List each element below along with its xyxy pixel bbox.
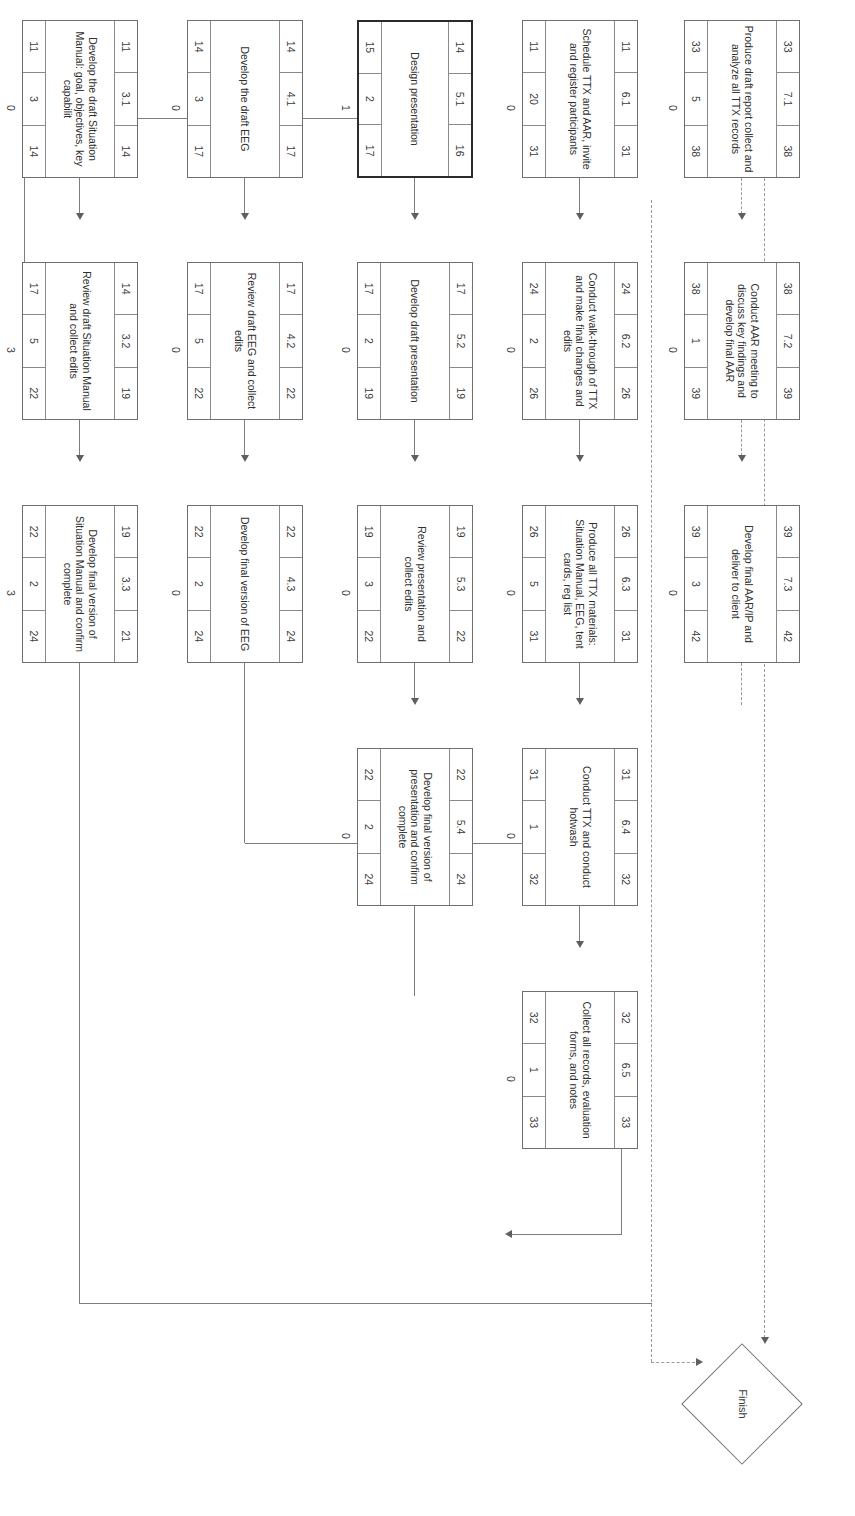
activity-description: Develop the draft Situation Manual: goal…	[46, 21, 114, 177]
activity-node[interactable]: 26 6.3 31 Produce all TTX materials: Sit…	[522, 505, 638, 663]
duration: 1	[523, 801, 545, 853]
late-finish: 38	[685, 126, 707, 177]
late-finish: 17	[359, 125, 381, 176]
activity-node[interactable]: 19 5.3 22 Review presentation and collec…	[357, 505, 473, 663]
float-value: 0	[667, 341, 679, 359]
connector-arrow-6p1-6p2	[576, 213, 584, 220]
activity-description: Review presentation and collect edits	[381, 506, 449, 662]
connector-arrow-6p2-6p3	[576, 455, 584, 462]
activity-description: Develop final AAR/IP and deliver to clie…	[708, 506, 776, 662]
early-start: 14	[115, 263, 137, 315]
activity-node[interactable]: 17 5.2 19 Develop draft presentation 17 …	[357, 262, 473, 420]
activity-description: Develop final version of presentation an…	[381, 749, 449, 905]
activity-node[interactable]: 14 5.1 16 Design presentation 15 2 17	[357, 20, 473, 178]
late-start: 38	[685, 263, 707, 315]
activity-id: 5.4	[450, 801, 472, 853]
connector-arrow-7p1-7p2	[738, 213, 746, 220]
connector-3p2-to-3p3	[79, 420, 80, 456]
activity-node[interactable]: 24 6.2 26 Conduct walk-through of TTX an…	[522, 262, 638, 420]
node-top-row: 33 7.1 38	[776, 21, 799, 177]
float-value: 0	[505, 341, 517, 359]
node-bottom-row: 11 3 14	[23, 21, 46, 177]
activity-node[interactable]: 11 6.1 31 Schedule TTX and AAR, invite a…	[522, 20, 638, 178]
float-value: 0	[340, 341, 352, 359]
early-finish: 33	[615, 1097, 637, 1148]
node-top-row: 32 6.5 33	[614, 992, 637, 1148]
activity-description: Produce draft report collect and analyze…	[708, 21, 776, 177]
connector-3p1-to-3p2	[79, 178, 80, 214]
early-finish: 39	[777, 368, 799, 419]
node-bottom-row: 11 20 31	[523, 21, 546, 177]
node-top-row: 22 5.4 24	[449, 749, 472, 905]
activity-node[interactable]: 17 4.2 22 Review draft EEG and collect e…	[187, 262, 303, 420]
connector-4p3-out	[244, 663, 245, 843]
late-start: 26	[523, 506, 545, 558]
early-finish: 16	[449, 125, 471, 176]
node-bottom-row: 22 2 24	[23, 506, 46, 662]
late-start: 14	[188, 21, 210, 73]
activity-id: 4.3	[280, 558, 302, 610]
duration: 1	[685, 315, 707, 367]
node-bottom-row: 19 3 22	[358, 506, 381, 662]
connector-5p2-to-5p3	[414, 420, 415, 456]
late-start: 15	[359, 22, 381, 74]
early-start: 39	[777, 506, 799, 558]
activity-node[interactable]: 22 5.4 24 Develop final version of prese…	[357, 748, 473, 906]
connector-arrow-4p1-4p2	[241, 213, 249, 220]
early-finish: 42	[777, 611, 799, 662]
node-bottom-row: 31 1 32	[523, 749, 546, 905]
activity-node[interactable]: 31 6.4 32 Conduct TTX and conduct hotwas…	[522, 748, 638, 906]
node-top-row: 26 6.3 31	[614, 506, 637, 662]
node-top-row: 14 3.2 19	[114, 263, 137, 419]
connector-4p2-to-4p3	[244, 420, 245, 456]
late-start: 11	[523, 21, 545, 73]
connector-6p1-to-6p2	[579, 178, 580, 214]
activity-node[interactable]: 38 7.2 39 Conduct AAR meeting to discuss…	[684, 262, 800, 420]
node-bottom-row: 38 1 39	[685, 263, 708, 419]
activity-node[interactable]: 14 3.2 19 Review draft Situation Manual …	[22, 262, 138, 420]
activity-node[interactable]: 11 3.1 14 Develop the draft Situation Ma…	[22, 20, 138, 178]
connector-arrow-5p1-5p2	[411, 213, 419, 220]
late-finish: 42	[685, 611, 707, 662]
node-bottom-row: 15 2 17	[359, 22, 382, 176]
late-finish: 39	[685, 368, 707, 419]
node-bottom-row: 22 2 24	[188, 506, 211, 662]
early-finish: 21	[115, 611, 137, 662]
connector-6p2-to-6p3	[579, 420, 580, 456]
activity-node[interactable]: 14 4.1 17 Develop the draft EEG 14 3 17	[187, 20, 303, 178]
early-finish: 19	[450, 368, 472, 419]
activity-description: Develop final version of EEG	[211, 506, 279, 662]
duration: 2	[23, 558, 45, 610]
late-finish: 22	[188, 368, 210, 419]
activity-id: 6.5	[615, 1044, 637, 1096]
late-start: 32	[523, 992, 545, 1044]
activity-node[interactable]: 33 7.1 38 Produce draft report collect a…	[684, 20, 800, 178]
early-finish: 24	[450, 854, 472, 905]
connector-arrow-5p3-5p4	[411, 698, 419, 705]
activity-node[interactable]: 32 6.5 33 Collect all records, evaluatio…	[522, 991, 638, 1149]
duration: 3	[188, 73, 210, 125]
late-finish: 17	[188, 126, 210, 177]
early-start: 26	[615, 506, 637, 558]
node-top-row: 22 4.3 24	[279, 506, 302, 662]
late-finish: 33	[523, 1097, 545, 1148]
connector-arrow-7p2-7p3	[738, 455, 746, 462]
node-bottom-row: 17 2 19	[358, 263, 381, 419]
duration: 2	[358, 801, 380, 853]
duration: 2	[358, 315, 380, 367]
activity-node[interactable]: 39 7.3 42 Develop final AAR/IP and deliv…	[684, 505, 800, 663]
finish-milestone-label: Finish	[737, 1359, 749, 1449]
activity-node[interactable]: 19 3.3 21 Develop final version of Situa…	[22, 505, 138, 663]
connector-6p3-to-6p4	[579, 663, 580, 699]
connector-arrow-second-rail	[696, 1358, 703, 1366]
node-bottom-row: 32 1 33	[523, 992, 546, 1148]
activity-node[interactable]: 22 4.3 24 Develop final version of EEG 2…	[187, 505, 303, 663]
activity-id: 4.1	[280, 73, 302, 125]
node-bottom-row: 24 2 26	[523, 263, 546, 419]
late-start: 22	[188, 506, 210, 558]
late-finish: 14	[23, 126, 45, 177]
early-start: 33	[777, 21, 799, 73]
node-bottom-row: 33 5 38	[685, 21, 708, 177]
late-start: 17	[188, 263, 210, 315]
early-start: 17	[280, 263, 302, 315]
